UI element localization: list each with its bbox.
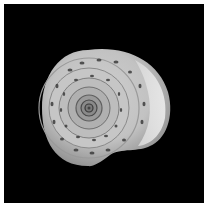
snail-shell-image bbox=[0, 0, 211, 206]
